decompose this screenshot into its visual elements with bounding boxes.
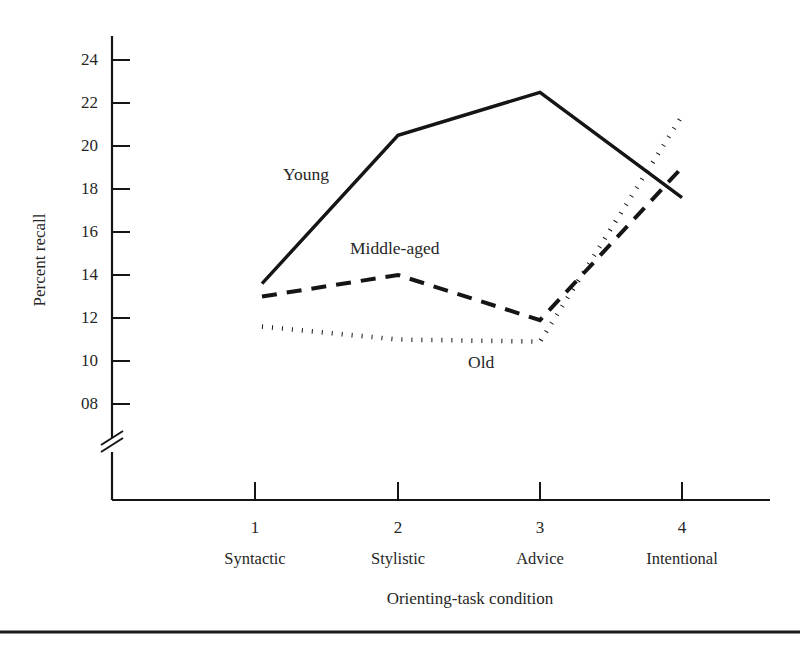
y-tick-label-24: 24 (58, 50, 98, 70)
series-label-middle-aged: Middle-aged (350, 238, 439, 259)
axis-break-mark-lower (101, 438, 123, 452)
y-tick-label-22: 22 (58, 93, 98, 113)
x-tick-number-1: 1 (225, 518, 285, 538)
y-tick-label-16: 16 (58, 222, 98, 242)
x-category-label-intentional: Intentional (612, 549, 752, 569)
x-category-label-stylistic: Stylistic (328, 549, 468, 569)
x-axis-title: Orienting-task condition (330, 589, 610, 609)
y-axis-ticks (112, 60, 130, 404)
series-line-young (262, 92, 682, 283)
y-tick-label-18: 18 (58, 179, 98, 199)
y-tick-label-08: 08 (58, 394, 98, 414)
series-label-young: Young (283, 164, 329, 185)
y-axis-title-wrapper: Percent recall (30, 150, 54, 370)
x-axis-ticks (255, 482, 682, 500)
y-tick-label-14: 14 (58, 265, 98, 285)
x-category-label-syntactic: Syntactic (185, 549, 325, 569)
series-line-middle-aged (262, 168, 682, 321)
x-category-label-advice: Advice (470, 549, 610, 569)
x-tick-number-2: 2 (368, 518, 428, 538)
y-tick-label-20: 20 (58, 136, 98, 156)
y-axis-title: Percent recall (30, 150, 50, 370)
series-label-old: Old (468, 352, 494, 373)
figure-panel: 24 22 20 18 16 14 12 10 08 Percent recal… (0, 0, 800, 651)
x-tick-number-3: 3 (510, 518, 570, 538)
x-tick-number-4: 4 (652, 518, 712, 538)
y-tick-label-12: 12 (58, 308, 98, 328)
y-tick-label-10: 10 (58, 351, 98, 371)
